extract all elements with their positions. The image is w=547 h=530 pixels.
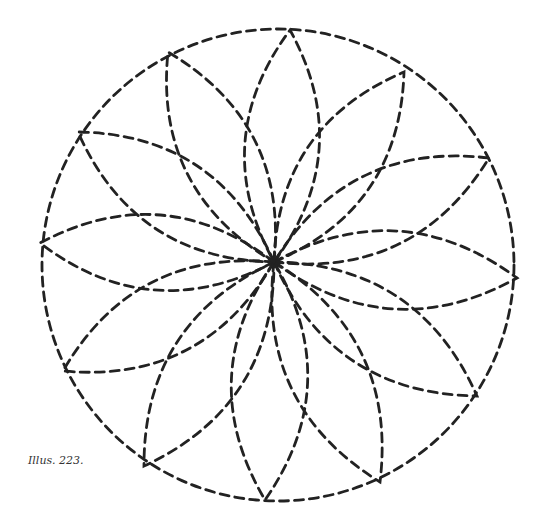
figure-caption: Illus. 223. [28,454,84,467]
petal-6 [272,262,382,482]
rosette-figure [0,0,547,530]
petal-4 [274,231,517,310]
